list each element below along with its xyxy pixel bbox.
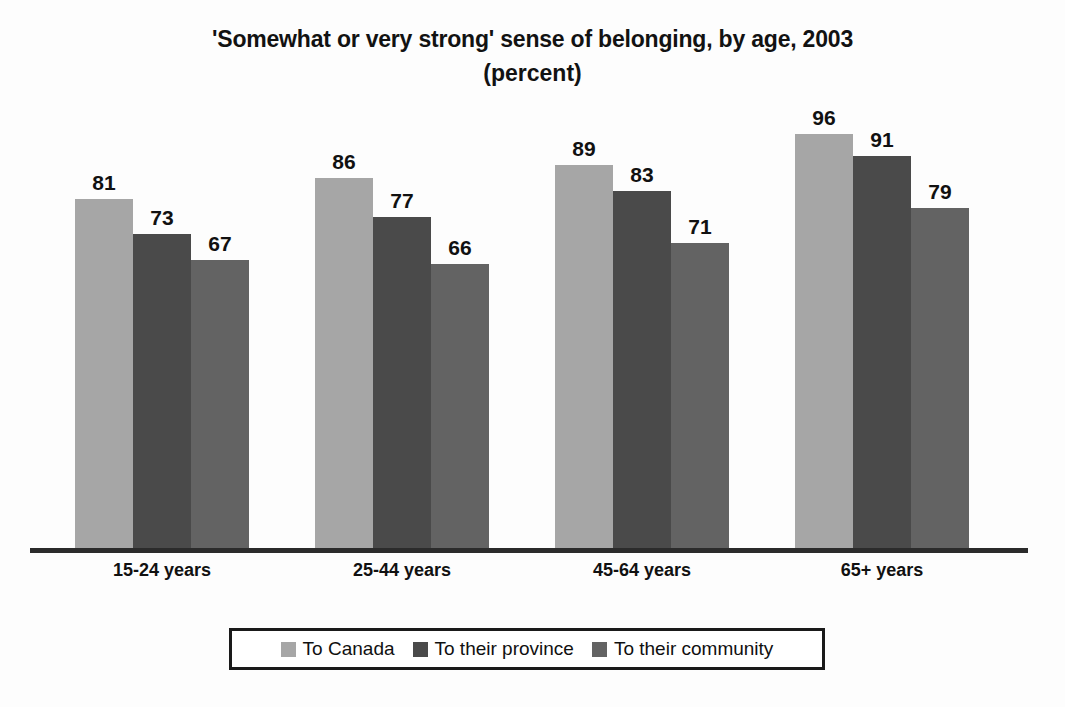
bar: [133, 234, 191, 550]
bar-value-label: 91: [847, 128, 917, 152]
bar-value-label: 81: [69, 171, 139, 195]
x-axis-line: [30, 548, 1028, 553]
bar: [373, 217, 431, 550]
bar-value-label: 67: [185, 232, 255, 256]
bar-value-label: 86: [309, 150, 379, 174]
bar: [911, 208, 969, 550]
bar: [555, 165, 613, 550]
legend-swatch-icon: [592, 642, 607, 657]
bar-value-label: 71: [665, 215, 735, 239]
bar-value-label: 73: [127, 206, 197, 230]
legend-swatch-icon: [413, 642, 428, 657]
legend-label: To their community: [614, 638, 773, 660]
bar-value-label: 89: [549, 137, 619, 161]
bar-value-label: 83: [607, 163, 677, 187]
bars-layer: 817367867766898371969179: [0, 0, 1065, 550]
category-label: 65+ years: [772, 560, 992, 581]
bar-value-label: 79: [905, 180, 975, 204]
bar: [613, 191, 671, 550]
bar: [853, 156, 911, 550]
bar: [431, 264, 489, 550]
category-label: 45-64 years: [532, 560, 752, 581]
category-label: 25-44 years: [292, 560, 512, 581]
bar-value-label: 96: [789, 106, 859, 130]
legend-item: To Canada: [281, 638, 395, 660]
legend-label: To their province: [435, 638, 574, 660]
category-label: 15-24 years: [52, 560, 272, 581]
bar: [191, 260, 249, 550]
chart-legend: To CanadaTo their provinceTo their commu…: [229, 628, 825, 670]
bar: [671, 243, 729, 550]
bar-value-label: 66: [425, 236, 495, 260]
legend-item: To their province: [413, 638, 574, 660]
chart-container: 'Somewhat or very strong' sense of belon…: [0, 0, 1065, 707]
bar: [315, 178, 373, 550]
plot-area: 817367867766898371969179 15-24 years25-4…: [0, 0, 1065, 560]
legend-label: To Canada: [303, 638, 395, 660]
bar: [795, 134, 853, 550]
bar: [75, 199, 133, 550]
legend-swatch-icon: [281, 642, 296, 657]
legend-item: To their community: [592, 638, 773, 660]
bar-value-label: 77: [367, 189, 437, 213]
